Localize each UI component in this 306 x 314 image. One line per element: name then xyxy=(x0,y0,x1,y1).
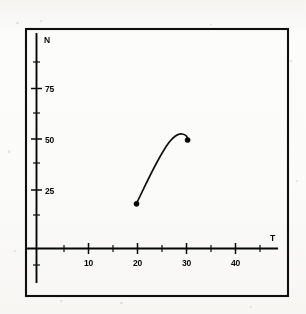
y-tick-label-75: 75 xyxy=(45,84,54,94)
y-axis-label: N xyxy=(44,35,50,45)
y-tick-label-50: 50 xyxy=(45,135,54,145)
data-point-end xyxy=(185,137,190,142)
data-curve xyxy=(137,134,188,204)
x-tick-label-30: 30 xyxy=(182,258,191,268)
y-tick-label-25: 25 xyxy=(45,186,54,196)
x-tick-label-20: 20 xyxy=(133,258,142,268)
x-tick-label-40: 40 xyxy=(231,258,240,268)
data-point-start xyxy=(134,201,139,206)
x-axis-label: T xyxy=(270,233,276,243)
x-tick-label-10: 10 xyxy=(84,258,93,268)
figure-canvas: 75 50 25 N 10 xyxy=(0,0,306,314)
plot-figure: 75 50 25 N 10 xyxy=(0,0,306,314)
